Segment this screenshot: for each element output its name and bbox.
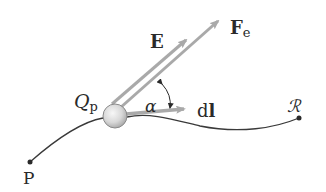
- end-point-dot: [297, 116, 302, 121]
- start-point-dot: [28, 160, 33, 165]
- field-arrow-e: [112, 40, 186, 104]
- displacement-label-dl: dl: [197, 100, 216, 121]
- diagram-svg: Qp E Fe α dl P ℛ: [0, 0, 326, 192]
- angle-arc-arrow: [162, 84, 170, 108]
- force-label-fe: Fe: [230, 17, 251, 40]
- end-point-label: ℛ: [287, 96, 302, 116]
- charge-label: Qp: [74, 90, 98, 114]
- trajectory-path: [30, 115, 299, 162]
- start-point-label: P: [23, 168, 34, 188]
- field-label-e: E: [150, 31, 164, 52]
- diagram-canvas: Qp E Fe α dl P ℛ: [0, 0, 326, 192]
- angle-label-alpha: α: [145, 96, 157, 116]
- charge-sphere: [103, 104, 127, 128]
